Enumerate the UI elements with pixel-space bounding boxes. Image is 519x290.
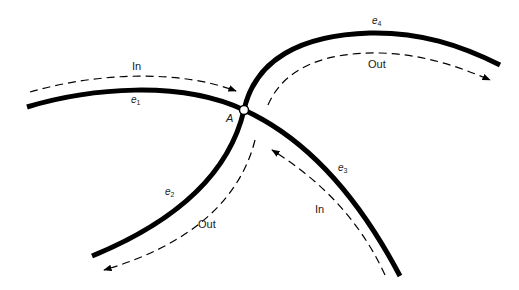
flow-arrow-in-e3 [272,150,385,275]
edge-label-e1: e1 [131,94,141,106]
edge-label-e2: e2 [165,186,175,198]
flow-label-in-e1: In [132,60,141,72]
edge-e4 [244,33,500,110]
junction-diagram: A e1 e4 e2 e3 In Out Out In [0,0,519,290]
edge-e3 [244,110,400,276]
node-label-a: A [225,112,233,124]
edge-label-e4: e4 [372,15,382,27]
flow-label-in-e3: In [315,203,324,215]
junction-node-a [240,106,249,115]
edge-e2 [92,110,244,256]
flow-label-out-e2: Out [198,218,216,230]
flow-label-out-e4: Out [368,58,386,70]
edge-label-e3: e3 [338,162,348,174]
